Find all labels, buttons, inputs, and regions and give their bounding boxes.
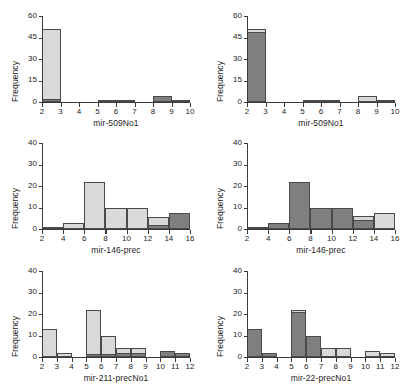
x-tick-label: 8 bbox=[300, 234, 320, 243]
x-tick-label: 4 bbox=[258, 234, 278, 243]
x-tick-label: 6 bbox=[106, 107, 126, 116]
histogram-bar bbox=[310, 208, 331, 230]
x-tick bbox=[340, 103, 341, 107]
y-axis-label: Frequency bbox=[215, 316, 225, 357]
x-tick-label: 4 bbox=[69, 107, 89, 116]
x-tick bbox=[365, 358, 366, 362]
x-tick bbox=[42, 230, 43, 234]
y-tick bbox=[39, 208, 43, 209]
x-tick bbox=[79, 103, 80, 107]
x-tick-label: 14 bbox=[159, 234, 179, 243]
x-tick bbox=[116, 358, 117, 362]
x-tick-label: 7 bbox=[125, 107, 145, 116]
y-tick bbox=[244, 271, 248, 272]
x-tick bbox=[247, 358, 248, 362]
histogram-bar bbox=[86, 310, 101, 357]
y-tick bbox=[244, 38, 248, 39]
x-tick bbox=[377, 103, 378, 107]
y-tick bbox=[244, 81, 248, 82]
x-tick bbox=[284, 103, 285, 107]
x-tick bbox=[127, 230, 128, 234]
x-tick-label: 8 bbox=[348, 107, 368, 116]
x-tick-label: 3 bbox=[51, 107, 71, 116]
y-tick-label: 30 bbox=[217, 159, 242, 168]
x-tick bbox=[98, 103, 99, 107]
x-tick-label: 10 bbox=[322, 234, 342, 243]
y-tick bbox=[39, 16, 43, 17]
y-tick-label: 40 bbox=[12, 138, 37, 147]
x-tick bbox=[42, 358, 43, 362]
y-tick bbox=[244, 59, 248, 60]
x-tick bbox=[86, 358, 87, 362]
y-tick bbox=[244, 186, 248, 187]
x-tick-label: 12 bbox=[343, 234, 363, 243]
x-tick bbox=[395, 103, 396, 107]
y-axis-label: Frequency bbox=[215, 188, 225, 229]
x-tick bbox=[247, 103, 248, 107]
y-axis-label: Frequency bbox=[10, 316, 20, 357]
x-tick-label: 16 bbox=[180, 234, 200, 243]
y-tick bbox=[39, 314, 43, 315]
y-tick bbox=[244, 165, 248, 166]
y-tick bbox=[39, 81, 43, 82]
x-tick bbox=[336, 358, 337, 362]
x-tick bbox=[135, 103, 136, 107]
y-tick bbox=[39, 271, 43, 272]
y-tick bbox=[244, 336, 248, 337]
x-tick bbox=[61, 103, 62, 107]
x-tick-label: 2 bbox=[32, 234, 52, 243]
histogram-bar bbox=[247, 329, 262, 357]
x-tick bbox=[374, 230, 375, 234]
y-tick-label: 45 bbox=[12, 32, 37, 41]
x-tick bbox=[146, 358, 147, 362]
histogram-bar bbox=[374, 213, 395, 229]
y-tick-label: 60 bbox=[217, 11, 242, 20]
histogram-bar bbox=[42, 29, 61, 102]
x-axis-label: mir-146-prec bbox=[247, 245, 395, 255]
x-tick bbox=[277, 358, 278, 362]
x-axis-label: mir-509No1 bbox=[42, 118, 190, 128]
histogram-bar bbox=[321, 348, 336, 357]
x-tick bbox=[160, 358, 161, 362]
histogram-bar bbox=[289, 182, 310, 229]
x-tick bbox=[306, 358, 307, 362]
x-tick-label: 12 bbox=[385, 362, 405, 371]
y-tick bbox=[244, 16, 248, 17]
x-tick bbox=[105, 230, 106, 234]
x-tick-label: 6 bbox=[311, 107, 331, 116]
x-tick-label: 16 bbox=[385, 234, 405, 243]
histogram-bar bbox=[105, 208, 126, 230]
x-tick-label: 12 bbox=[180, 362, 200, 371]
y-axis-label: Frequency bbox=[215, 61, 225, 102]
x-tick bbox=[190, 103, 191, 107]
x-tick bbox=[321, 358, 322, 362]
x-tick bbox=[153, 103, 154, 107]
y-tick-label: 30 bbox=[217, 287, 242, 296]
x-tick bbox=[303, 103, 304, 107]
x-tick bbox=[169, 230, 170, 234]
x-tick bbox=[148, 230, 149, 234]
y-tick bbox=[244, 314, 248, 315]
x-tick bbox=[190, 230, 191, 234]
x-tick bbox=[310, 230, 311, 234]
x-tick bbox=[353, 230, 354, 234]
y-tick-label: 30 bbox=[12, 287, 37, 296]
x-tick bbox=[380, 358, 381, 362]
y-tick bbox=[244, 143, 248, 144]
y-axis-label: Frequency bbox=[10, 61, 20, 102]
histogram-bar bbox=[84, 182, 105, 229]
histogram-bar bbox=[332, 208, 353, 230]
x-tick bbox=[190, 358, 191, 362]
histogram-bar bbox=[127, 208, 148, 230]
x-tick-label: 14 bbox=[364, 234, 384, 243]
y-tick bbox=[39, 59, 43, 60]
x-tick bbox=[321, 103, 322, 107]
x-axis-label: mir-22-precNo1 bbox=[247, 373, 395, 383]
x-tick-label: 9 bbox=[162, 107, 182, 116]
y-tick-label: 45 bbox=[217, 32, 242, 41]
x-tick-label: 9 bbox=[367, 107, 387, 116]
x-tick bbox=[268, 230, 269, 234]
x-tick bbox=[131, 358, 132, 362]
x-tick-label: 8 bbox=[95, 234, 115, 243]
histogram-bar bbox=[42, 329, 57, 357]
